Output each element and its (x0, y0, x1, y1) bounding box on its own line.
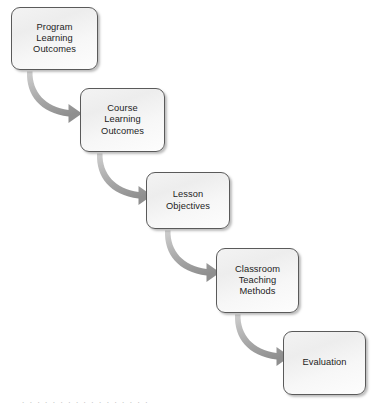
node-evaluation[interactable]: Evaluation (283, 331, 366, 395)
node-classroom-teaching-methods[interactable]: Classroom Teaching Methods (216, 248, 299, 313)
node-label: Program Learning Outcomes (30, 22, 79, 56)
cropped-caption-sliver: . . . . . . . . . . . . . . . . . (0, 399, 374, 405)
node-label: Course Learning Outcomes (98, 103, 147, 137)
node-lesson-objectives[interactable]: Lesson Objectives (146, 172, 230, 229)
arrow-program-to-course (27, 72, 82, 124)
arrow-course-to-lesson (97, 154, 152, 206)
node-course-learning-outcomes[interactable]: Course Learning Outcomes (80, 88, 165, 152)
node-label: Lesson Objectives (163, 189, 213, 212)
node-program-learning-outcomes[interactable]: Program Learning Outcomes (11, 7, 98, 70)
cropped-caption-text: . . . . . . . . . . . . . . . . . (22, 399, 374, 405)
diagram-canvas: Program Learning Outcomes Course Learnin… (0, 0, 374, 405)
arrow-lesson-to-methods (165, 231, 220, 283)
node-label: Evaluation (300, 357, 350, 368)
arrow-methods-to-evaluation (235, 315, 290, 367)
node-label: Classroom Teaching Methods (232, 264, 283, 298)
